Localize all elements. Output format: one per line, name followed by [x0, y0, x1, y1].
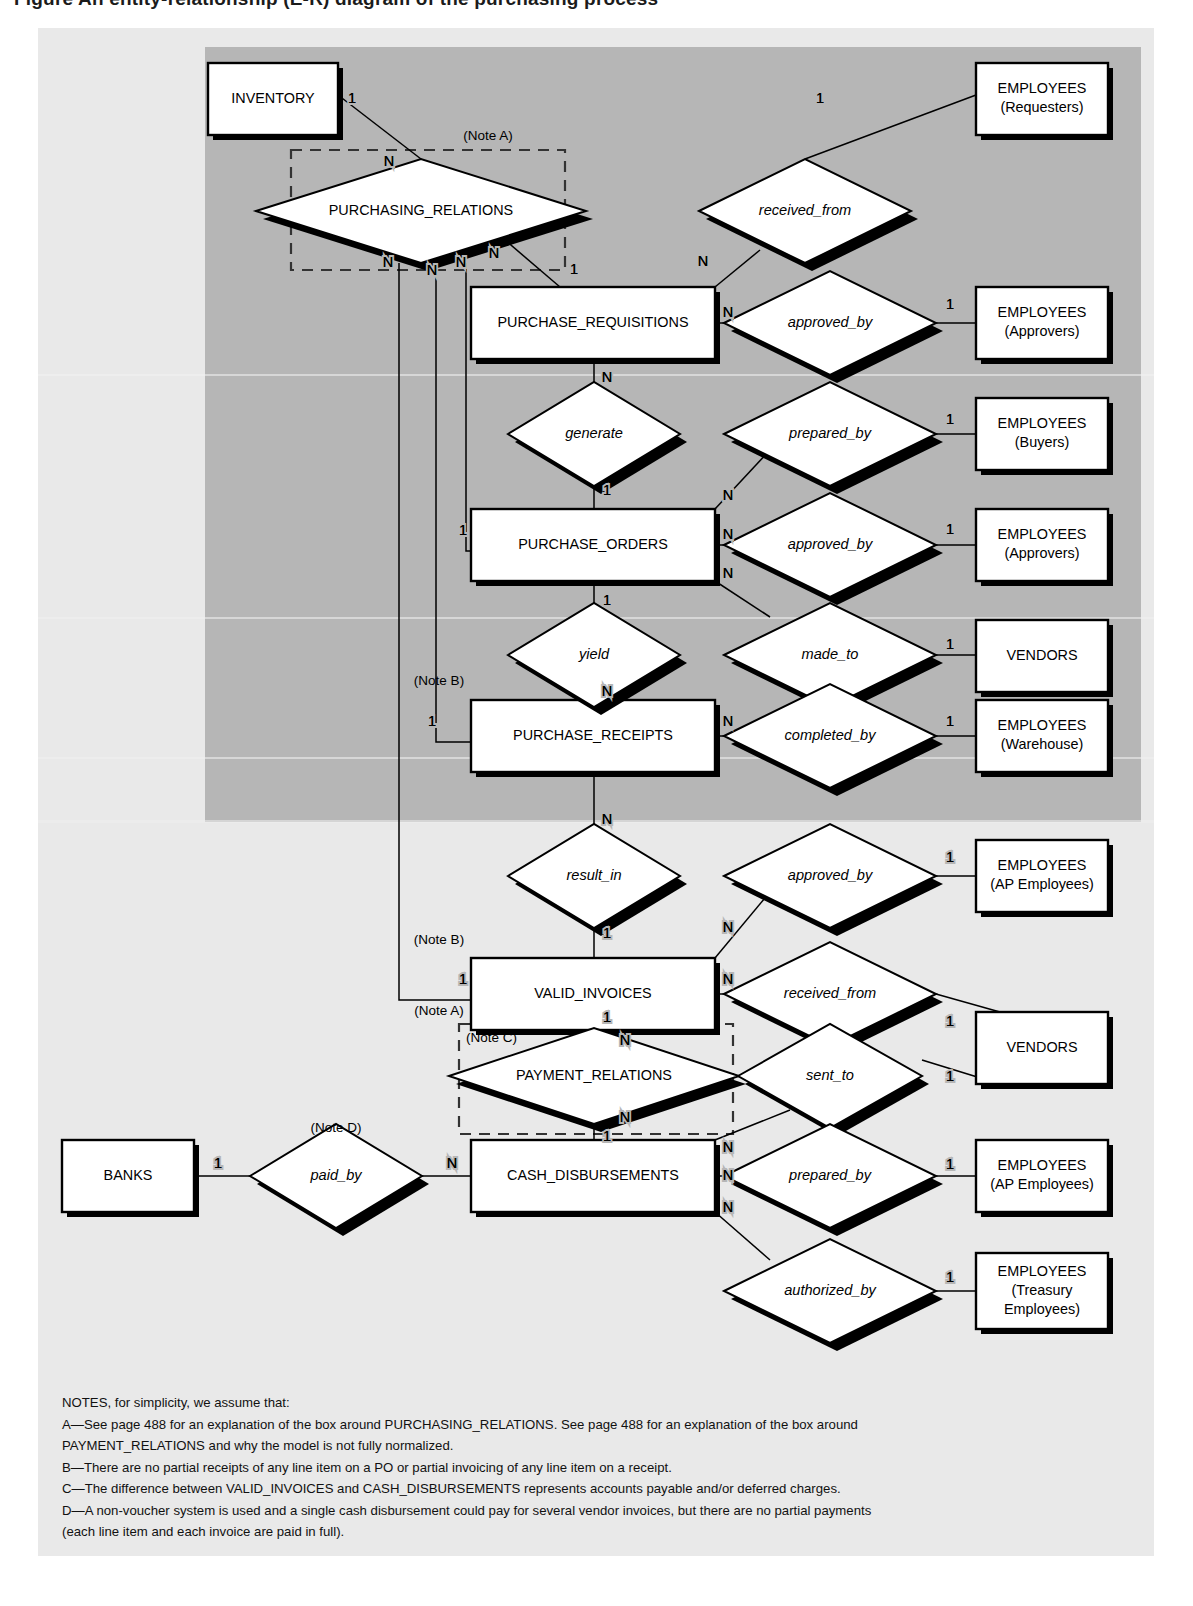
notes-heading: NOTES, for simplicity, we assume that:	[62, 1395, 290, 1410]
svg-text:1: 1	[946, 1013, 954, 1029]
cardinality-card-rec-res-n: NN	[602, 811, 612, 827]
svg-text:N: N	[456, 254, 466, 270]
cardinality-card-pay-n-top: NN	[620, 1032, 630, 1048]
entity-label: VENDORS	[1006, 647, 1077, 663]
entity-emp_treas[interactable]: EMPLOYEES(TreasuryEmployees)	[976, 1253, 1113, 1334]
relationship-label: result_in	[566, 867, 621, 883]
entity-label: (Warehouse)	[1001, 736, 1084, 752]
relationship-label: approved_by	[788, 867, 874, 883]
entity-label: (Buyers)	[1015, 434, 1069, 450]
cardinality-card-cd-prep-n: NN	[723, 1167, 733, 1183]
entity-label: (AP Employees)	[990, 1176, 1094, 1192]
svg-text:N: N	[723, 919, 733, 935]
entity-emp_ap1[interactable]: EMPLOYEES(AP Employees)	[976, 840, 1113, 917]
entity-emp_wh[interactable]: EMPLOYEES(Warehouse)	[976, 700, 1113, 777]
entity-label: VALID_INVOICES	[534, 985, 651, 1001]
cardinality-card-yield-n: NN	[602, 683, 612, 699]
cardinality-card-treas-1: 11	[946, 1269, 954, 1285]
entity-label: VENDORS	[1006, 1039, 1077, 1055]
note-marker-note-a-top: (Note A)	[463, 128, 513, 143]
svg-text:N: N	[723, 1167, 733, 1183]
svg-text:1: 1	[946, 521, 954, 537]
svg-text:1: 1	[946, 1269, 954, 1285]
cardinality-card-pay-cd-1: 11	[603, 1128, 611, 1144]
cardinality-card-gen-1: 11	[603, 482, 611, 498]
svg-text:1: 1	[946, 1068, 954, 1084]
entity-label: INVENTORY	[231, 90, 315, 106]
svg-text:N: N	[723, 565, 733, 581]
svg-text:N: N	[383, 254, 393, 270]
entity-banks[interactable]: BANKS	[62, 1140, 199, 1217]
svg-text:1: 1	[946, 296, 954, 312]
cardinality-card-vendors2-1a: 11	[946, 1013, 954, 1029]
svg-text:N: N	[723, 971, 733, 987]
svg-text:N: N	[620, 1109, 630, 1125]
entity-label: (AP Employees)	[990, 876, 1094, 892]
cardinality-card-banks-1: 11	[214, 1155, 222, 1171]
relationship-label: received_from	[784, 985, 876, 1001]
svg-text:1: 1	[946, 636, 954, 652]
entity-inventory[interactable]: INVENTORY	[208, 63, 343, 140]
cardinality-card-pr-req-1: 11	[570, 261, 578, 277]
relationship-label: sent_to	[806, 1067, 854, 1083]
cardinality-card-appr2-1: 11	[946, 521, 954, 537]
cardinality-card-paidby-n: NN	[447, 1155, 457, 1171]
entity-label: EMPLOYEES	[998, 1157, 1087, 1173]
entity-label: PURCHASE_RECEIPTS	[513, 727, 673, 743]
notes-item: D—A non-voucher system is used and a sin…	[62, 1503, 872, 1518]
entity-label: PURCHASE_ORDERS	[518, 536, 668, 552]
entity-pur_req[interactable]: PURCHASE_REQUISITIONS	[471, 287, 720, 364]
entity-cash_disb[interactable]: CASH_DISBURSEMENTS	[471, 1140, 720, 1217]
cardinality-card-pr-inv-n: NN	[384, 153, 394, 169]
svg-text:1: 1	[603, 1128, 611, 1144]
entity-emp_ap2[interactable]: EMPLOYEES(AP Employees)	[976, 1140, 1113, 1217]
relationship-label: yield	[578, 646, 610, 662]
relationship-label: prepared_by	[788, 1167, 873, 1183]
entity-emp_appr2[interactable]: EMPLOYEES(Approvers)	[976, 509, 1113, 586]
cardinality-card-appr1-1: 11	[946, 296, 954, 312]
entity-emp_appr1[interactable]: EMPLOYEES(Approvers)	[976, 287, 1113, 364]
er-diagram-canvas: INVENTORYEMPLOYEES(Requesters)PURCHASE_R…	[0, 0, 1193, 1606]
entity-valid_inv[interactable]: VALID_INVOICES	[471, 958, 720, 1035]
cardinality-card-req-gen-n: NN	[602, 369, 612, 385]
svg-text:N: N	[698, 253, 708, 269]
cardinality-card-emp-req-1: 11	[816, 90, 824, 106]
entity-label: EMPLOYEES	[998, 717, 1087, 733]
svg-text:N: N	[447, 1155, 457, 1171]
svg-text:N: N	[602, 369, 612, 385]
note-marker-note-c-payment: (Note C)	[466, 1030, 517, 1045]
cardinality-card-po-prep-n: NN	[723, 487, 733, 503]
cardinality-card-res-1: 11	[603, 925, 611, 941]
cardinality-card-inv-appr-n: NN	[723, 919, 733, 935]
cardinality-card-wh-1: 11	[946, 713, 954, 729]
entity-label: EMPLOYEES	[998, 526, 1087, 542]
relationship-label: paid_by	[309, 1167, 363, 1183]
entity-label: EMPLOYEES	[998, 1263, 1087, 1279]
svg-text:N: N	[489, 245, 499, 261]
svg-text:N: N	[723, 1139, 733, 1155]
svg-text:1: 1	[603, 1009, 611, 1025]
cardinality-card-buy-1: 11	[946, 411, 954, 427]
cardinality-card-rec-comp-n: NN	[723, 713, 733, 729]
relationship-label: received_from	[759, 202, 851, 218]
entity-label: EMPLOYEES	[998, 857, 1087, 873]
svg-text:N: N	[723, 304, 733, 320]
relationship-label: completed_by	[785, 727, 878, 743]
cardinality-card-pr-n2: NN	[427, 262, 437, 278]
entity-pur_ord[interactable]: PURCHASE_ORDERS	[471, 509, 720, 586]
cardinality-card-pr-rec-1: 11	[428, 713, 436, 729]
entity-vendors1[interactable]: VENDORS	[976, 620, 1113, 697]
relationship-label: generate	[565, 425, 623, 441]
svg-text:1: 1	[946, 1156, 954, 1172]
cardinality-card-ap2-1: 11	[946, 1156, 954, 1172]
entity-emp_buy[interactable]: EMPLOYEES(Buyers)	[976, 398, 1113, 475]
note-marker-note-a-payment: (Note A)	[414, 1003, 464, 1018]
entity-emp_req[interactable]: EMPLOYEES(Requesters)	[976, 63, 1113, 140]
entity-vendors2[interactable]: VENDORS	[976, 1012, 1113, 1089]
svg-text:1: 1	[570, 261, 578, 277]
notes-item: (each line item and each invoice are pai…	[62, 1524, 344, 1539]
note-marker-note-d-paidby: (Note D)	[310, 1120, 361, 1135]
svg-text:1: 1	[946, 713, 954, 729]
entity-label: EMPLOYEES	[998, 80, 1087, 96]
cardinality-card-pr-n1: NN	[383, 254, 393, 270]
